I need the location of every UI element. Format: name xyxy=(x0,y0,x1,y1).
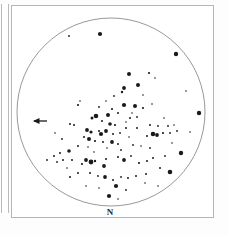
star-chart-figure: N xyxy=(0,0,229,235)
north-direction-label: N xyxy=(102,207,118,217)
page-gutter-strip xyxy=(1,4,9,213)
figure-frame-border xyxy=(11,5,214,218)
